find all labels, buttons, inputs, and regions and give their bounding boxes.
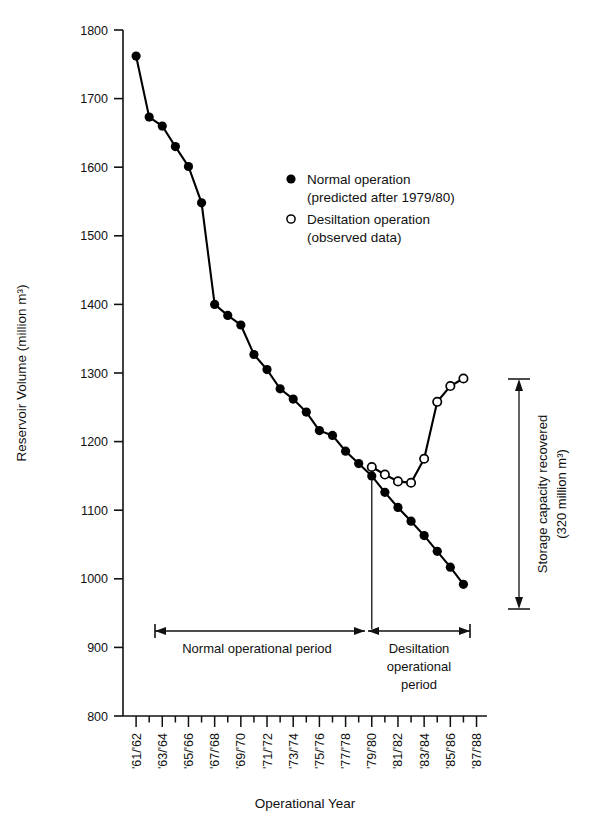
data-point-filled-circle: [131, 51, 140, 60]
y-tick-label: 1700: [80, 92, 108, 106]
x-tick-label: '69/'70: [234, 733, 248, 769]
reservoir-volume-chart: 8009001000110012001300140015001600170018…: [0, 0, 601, 835]
data-point-filled-circle: [406, 517, 415, 526]
legend-marker-open-circle-icon: [287, 215, 295, 223]
data-point-filled-circle: [289, 394, 298, 403]
legend-marker-filled-circle-icon: [286, 174, 295, 183]
y-tick-label: 1000: [80, 572, 108, 586]
data-point-open-circle: [420, 455, 428, 463]
x-tick-label: '67/'68: [208, 733, 222, 769]
y-tick-label: 1400: [80, 298, 108, 312]
data-point-filled-circle: [236, 320, 245, 329]
data-point-filled-circle: [446, 563, 455, 572]
data-point-filled-circle: [145, 113, 154, 122]
x-tick-label: '79/'80: [365, 733, 379, 769]
desiltation-period-label-line3: period: [401, 677, 437, 692]
data-point-open-circle: [407, 479, 415, 487]
data-point-filled-circle: [328, 431, 337, 440]
storage-annotation-label-line1: Storage capacity recovered: [535, 415, 550, 573]
data-point-filled-circle: [420, 531, 429, 540]
y-tick-label: 900: [87, 641, 108, 655]
y-tick-label: 1100: [81, 504, 108, 518]
data-point-open-circle: [368, 463, 376, 471]
data-point-open-circle: [459, 374, 467, 382]
data-point-open-circle: [394, 477, 402, 485]
x-tick-label: '81/'82: [391, 733, 405, 769]
normal-period-label: Normal operational period: [182, 641, 332, 656]
data-point-filled-circle: [184, 162, 193, 171]
y-tick-label: 1800: [80, 24, 108, 38]
x-axis-title: Operational Year: [255, 796, 356, 811]
data-point-filled-circle: [459, 580, 468, 589]
storage-annotation-label-line2: (320 million m³): [554, 449, 569, 539]
x-tick-label: '77/'78: [339, 733, 353, 769]
x-tick-label: '63/'64: [156, 733, 170, 769]
y-tick-label: 1500: [80, 229, 108, 243]
data-point-open-circle: [433, 398, 441, 406]
legend-label-normal-operation: Normal operation: [307, 172, 411, 187]
data-point-filled-circle: [302, 408, 311, 417]
data-point-filled-circle: [262, 365, 271, 374]
data-point-filled-circle: [223, 311, 232, 320]
x-tick-label: '71/'72: [261, 733, 275, 769]
y-tick-label: 1200: [80, 435, 108, 449]
x-tick-label: '85/'86: [444, 733, 458, 769]
data-point-filled-circle: [197, 198, 206, 207]
data-point-filled-circle: [249, 350, 258, 359]
x-tick-label: '73/'74: [287, 733, 301, 769]
x-tick-label: '75/'76: [313, 733, 327, 769]
legend-sublabel-normal-operation: (predicted after 1979/80): [307, 190, 455, 205]
data-point-filled-circle: [393, 503, 402, 512]
x-tick-label: '65/'66: [182, 733, 196, 769]
legend-label-desiltation-operation: Desiltation operation: [307, 212, 430, 227]
chart-page: 8009001000110012001300140015001600170018…: [0, 0, 601, 835]
data-point-filled-circle: [210, 300, 219, 309]
data-point-filled-circle: [433, 547, 442, 556]
data-point-filled-circle: [276, 384, 285, 393]
data-point-filled-circle: [380, 488, 389, 497]
desiltation-period-label-line1: Desiltation: [389, 641, 450, 656]
x-tick-label: '61/'62: [130, 733, 144, 769]
y-tick-label: 800: [87, 710, 108, 724]
y-axis-title: Reservoir Volume (million m³): [14, 284, 29, 461]
data-point-filled-circle: [367, 471, 376, 480]
x-tick-label: '83/'84: [418, 733, 432, 769]
data-point-filled-circle: [354, 459, 363, 468]
data-point-open-circle: [381, 470, 389, 478]
data-point-filled-circle: [315, 426, 324, 435]
data-point-filled-circle: [341, 447, 350, 456]
desiltation-period-label-line2: operational: [387, 659, 451, 674]
data-point-filled-circle: [171, 142, 180, 151]
legend-sublabel-desiltation-operation: (observed data): [307, 230, 402, 245]
x-tick-label: '87/'88: [470, 733, 484, 769]
y-tick-label: 1300: [80, 367, 108, 381]
data-point-filled-circle: [158, 121, 167, 130]
y-tick-label: 1600: [80, 161, 108, 175]
data-point-open-circle: [446, 382, 454, 390]
